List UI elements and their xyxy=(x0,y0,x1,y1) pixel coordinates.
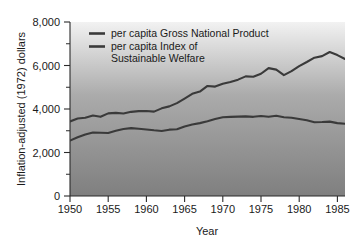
x-tick-label-1985: 1985 xyxy=(325,203,349,215)
legend-label-isew-line1: per capita Index of xyxy=(111,40,197,52)
x-tick-label-1955: 1955 xyxy=(96,203,120,215)
x-tick-label-1960: 1960 xyxy=(134,203,158,215)
x-tick-label-1950: 1950 xyxy=(58,203,82,215)
y-tick-label-2000: 2,000 xyxy=(32,147,60,159)
x-tick-label-1980: 1980 xyxy=(287,203,311,215)
x-axis-title: Year xyxy=(196,225,219,237)
legend-label-isew-line2: Sustainable Welfare xyxy=(111,52,205,64)
x-tick-label-1965: 1965 xyxy=(172,203,196,215)
y-tick-label-8000: 8,000 xyxy=(32,16,60,28)
y-tick-label-4000: 4,000 xyxy=(32,103,60,115)
x-tick-label-1975: 1975 xyxy=(249,203,273,215)
y-axis-title: Inflation-adjusted (1972) dollars xyxy=(15,31,27,186)
legend-label-gnp: per capita Gross National Product xyxy=(111,27,269,39)
y-axis-ticks xyxy=(64,22,70,196)
x-tick-label-1970: 1970 xyxy=(211,203,235,215)
x-axis-ticks xyxy=(70,196,337,202)
y-tick-label-0: 0 xyxy=(54,190,60,202)
chart-figure: 0 2,000 4,000 6,000 8,000 1950 1955 1960… xyxy=(0,0,354,243)
line-chart: 0 2,000 4,000 6,000 8,000 1950 1955 1960… xyxy=(0,0,354,243)
y-tick-label-6000: 6,000 xyxy=(32,60,60,72)
